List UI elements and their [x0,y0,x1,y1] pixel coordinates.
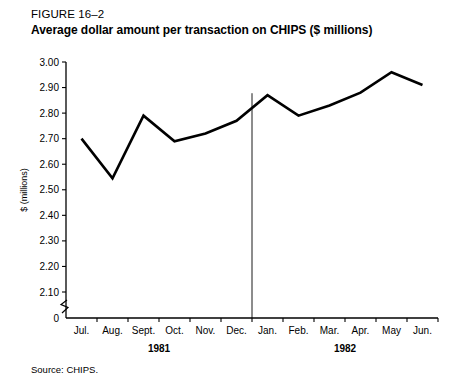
y-tick-label: 2.70 [40,133,60,144]
x-tick-label: Aug. [102,325,123,336]
y-tick-label: 2.20 [40,261,60,272]
line-chart-plot: 3.002.902.802.702.602.502.402.302.202.10… [0,0,458,386]
x-tick-label: Jul. [74,325,90,336]
y-axis-title: $ (millions) [19,168,29,212]
x-axis-year-label: 1982 [334,343,357,354]
y-tick-label: 0 [53,313,59,324]
y-axis-ticks: 3.002.902.802.702.602.502.402.302.202.10… [40,57,66,324]
x-tick-label: May [382,325,401,336]
y-tick-label: 3.00 [40,57,60,68]
x-tick-label: Apr. [352,325,370,336]
x-tick-label: Feb. [288,325,308,336]
x-axis-year-labels: 19811982 [148,343,357,354]
y-tick-label: 2.30 [40,235,60,246]
x-tick-label: Jan. [258,325,277,336]
x-tick-label: Nov. [196,325,216,336]
y-axis-group: 3.002.902.802.702.602.502.402.302.202.10… [19,57,68,324]
x-tick-label: Oct. [165,325,183,336]
axis-break-icon [61,300,68,313]
y-tick-label: 2.80 [40,108,60,119]
x-axis-year-label: 1981 [148,343,171,354]
y-tick-label: 2.50 [40,184,60,195]
x-tick-label: Sept. [132,325,155,336]
x-axis-tick-labels: Jul.Aug.Sept.Oct.Nov.Dec.Jan.Feb.Mar.Apr… [74,325,432,336]
figure-container: FIGURE 16–2 Average dollar amount per tr… [0,0,458,386]
x-tick-label: Mar. [320,325,339,336]
x-tick-label: Jun. [413,325,432,336]
y-tick-label: 2.10 [40,287,60,298]
x-tick-label: Dec. [226,325,247,336]
source-note: Source: CHIPS. [31,364,98,375]
x-axis-group: Jul.Aug.Sept.Oct.Nov.Dec.Jan.Feb.Mar.Apr… [66,318,438,354]
y-tick-label: 2.40 [40,210,60,221]
y-tick-label: 2.90 [40,82,60,93]
y-tick-label: 2.60 [40,159,60,170]
